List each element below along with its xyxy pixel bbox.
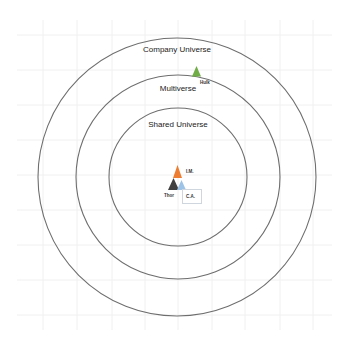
hulk-triangle-icon	[192, 66, 201, 77]
captain-america-label: C.A.	[186, 194, 195, 199]
thor-triangle-icon	[168, 178, 179, 190]
shared-universe-label: Shared Universe	[148, 120, 208, 129]
hulk-label: Hulk	[200, 80, 210, 85]
multiverse-label: Multiverse	[160, 84, 196, 93]
iron-man-label: I.M.	[186, 169, 194, 174]
thor-label: Thor	[164, 193, 174, 198]
iron-man-triangle-icon	[173, 165, 182, 178]
company-universe-label: Company Universe	[143, 45, 211, 54]
